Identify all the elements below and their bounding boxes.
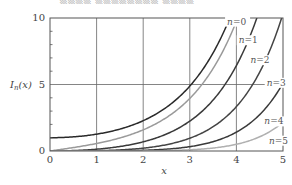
curve-label: n=3 bbox=[267, 78, 286, 88]
curve-n-3 bbox=[50, 14, 283, 151]
curve-label: n=0 bbox=[227, 17, 246, 27]
curve-labels: n=0n=1n=2n=3n=4n=5 bbox=[225, 17, 292, 146]
x-tick-label: 3 bbox=[187, 154, 193, 165]
y-tick-label: 10 bbox=[32, 12, 45, 23]
x-tick-label: 5 bbox=[280, 154, 286, 165]
y-tick-label: 5 bbox=[39, 79, 45, 90]
curve-label: n=4 bbox=[264, 116, 283, 126]
line-chart: 0123450510 n=0n=1n=2n=3n=4n=5 In(x) x bbox=[0, 0, 292, 185]
curve-n-5 bbox=[50, 122, 283, 151]
y-axis-label: In(x) bbox=[9, 79, 32, 92]
x-tick-label: 2 bbox=[140, 154, 146, 165]
curve-label: n=5 bbox=[269, 136, 288, 146]
x-axis-label: x bbox=[161, 165, 167, 176]
x-tick-label: 0 bbox=[47, 154, 53, 165]
x-tick-label: 4 bbox=[233, 154, 239, 165]
curve-label: n=2 bbox=[250, 55, 269, 65]
y-tick-label: 0 bbox=[39, 145, 45, 156]
x-tick-label: 1 bbox=[93, 154, 99, 165]
curve-label: n=1 bbox=[239, 35, 258, 45]
